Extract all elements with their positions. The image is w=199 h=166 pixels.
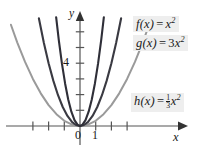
label-g-exponent: 2 [180,35,184,44]
label-f-exponent: 2 [171,16,175,25]
label-h-arg: (x) [140,94,154,108]
label-f-arg: (x) [140,17,154,31]
x-axis-arrowhead [178,122,188,131]
label-g-equals: = [157,36,168,50]
label-h-exponent: 2 [177,93,181,102]
y-tick-label-4: 4 [63,56,69,68]
function-label-h: h(x)=13x2 [131,93,184,112]
function-label-g: g(x)=3x2 [133,35,188,51]
x-axis-label: x [173,131,179,144]
label-g-arg: (x) [142,36,156,50]
label-h-fraction: 13 [166,94,170,111]
label-h-denominator: 3 [166,101,170,110]
label-h-numerator: 1 [166,94,170,102]
origin-label: 0 [75,129,81,141]
parabola-family-figure: y x 4 0 1 f(x)=x2 g(x)=3x2 h(x)=13x2 [0,0,199,166]
y-axis-label: y [69,8,74,20]
function-label-f: f(x)=x2 [133,16,179,32]
label-f-equals: = [154,17,165,31]
x-tick-label-1: 1 [92,129,98,141]
label-h-equals: = [155,94,166,108]
y-axis-arrowhead [76,11,84,21]
